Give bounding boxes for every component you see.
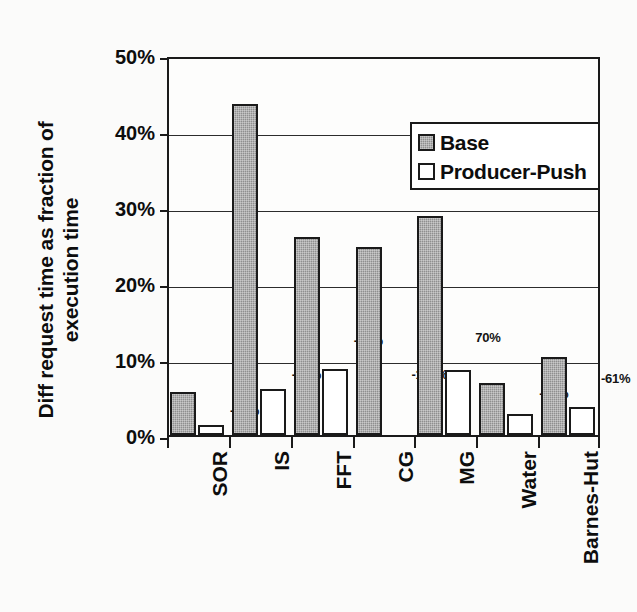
bar-is-producer-push: [260, 389, 286, 435]
bar-water-producer-push: [507, 414, 533, 435]
bar-group: [417, 59, 471, 435]
y-axis-tick-label: 30%: [115, 198, 155, 221]
y-axis-tick-label: 0%: [126, 426, 155, 449]
bar-is-base: [232, 104, 258, 435]
x-axis-label-fft: FFT: [333, 451, 355, 611]
y-axis-tick-mark: [160, 210, 169, 212]
bar-fft-producer-push: [322, 369, 348, 435]
bar-sor-base: [170, 392, 196, 435]
bar-delta-label: -61%: [601, 371, 630, 386]
chart-legend: Base Producer-Push: [410, 122, 600, 190]
bar-mg-producer-push: [445, 370, 471, 435]
x-axis-tick-mark: [476, 437, 478, 448]
y-axis-title: Diff request time as fraction of executi…: [26, 60, 90, 480]
bar-group: [356, 59, 410, 435]
legend-swatch-base-icon: [418, 134, 435, 151]
plot-area: 0%10%20%30%40%50%-77%-86%-65%-100%70%-57…: [167, 57, 600, 437]
x-axis-label-is: IS: [271, 451, 293, 611]
x-axis-label-water: Water: [518, 451, 540, 611]
x-axis-tick-mark: [598, 437, 600, 448]
bar-barnes-hut-producer-push: [569, 407, 595, 435]
y-axis-tick-mark: [160, 58, 169, 60]
x-axis-label-mg: MG: [456, 451, 478, 611]
bar-group: [232, 59, 286, 435]
bar-mg-base: [417, 216, 443, 435]
x-axis-label-cg: CG: [395, 451, 417, 611]
x-axis-label-sor: SOR: [209, 451, 231, 611]
bar-cg-base: [356, 247, 382, 435]
legend-item-producer-push: Producer-Push: [418, 157, 592, 186]
y-axis-tick-label: 50%: [115, 46, 155, 69]
y-axis-tick-mark: [160, 362, 169, 364]
y-axis-tick-mark: [160, 286, 169, 288]
y-axis-title-line-1: Diff request time as fraction of: [33, 122, 58, 419]
legend-swatch-producer-push-icon: [418, 163, 435, 180]
legend-label-base: Base: [440, 131, 489, 155]
x-axis-tick-mark: [229, 437, 231, 448]
bar-group: [170, 59, 224, 435]
x-axis-tick-mark: [353, 437, 355, 448]
bar-water-base: [479, 383, 505, 435]
bar-group: [541, 59, 595, 435]
bar-group: [294, 59, 348, 435]
bar-group: [479, 59, 533, 435]
x-axis-tick-mark: [291, 437, 293, 448]
x-axis-ticks: [167, 437, 600, 449]
bar-sor-producer-push: [198, 425, 224, 435]
x-axis-tick-mark: [414, 437, 416, 448]
y-axis-tick-label: 10%: [115, 350, 155, 373]
y-axis-tick-mark: [160, 134, 169, 136]
x-axis-label-barnes-hut: Barnes-Hut: [580, 451, 602, 611]
bar-chart-figure: Diff request time as fraction of executi…: [0, 0, 637, 612]
x-axis-labels: SORISFFTCGMGWaterBarnes-Hut: [167, 449, 600, 609]
bar-fft-base: [294, 237, 320, 435]
y-axis-tick-label: 20%: [115, 274, 155, 297]
bar-barnes-hut-base: [541, 357, 567, 435]
legend-item-base: Base: [418, 128, 592, 157]
y-axis-title-line-2: execution time: [58, 198, 83, 342]
x-axis-tick-mark: [167, 437, 169, 448]
y-axis-tick-label: 40%: [115, 122, 155, 145]
legend-label-producer-push: Producer-Push: [440, 160, 587, 184]
x-axis-tick-mark: [538, 437, 540, 448]
